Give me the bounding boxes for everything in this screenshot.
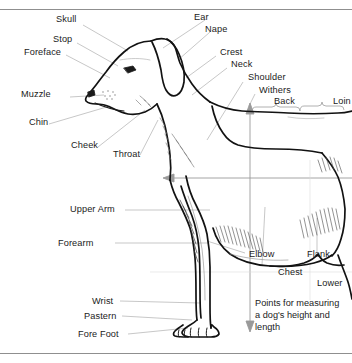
length-arrow-head-left [163,174,174,182]
flank-hatching [300,208,340,238]
leader-nape [178,32,210,60]
ear-outline [152,39,184,96]
label-crest: Crest [220,47,242,58]
label-skull: Skull [56,14,76,25]
region-braces [252,102,344,112]
label-elbow: Elbow [249,249,275,260]
label-shoulder: Shoulder [248,72,286,83]
dog-body-outline [86,39,352,337]
shoulder-fur-hatching [172,134,194,167]
leader-ear [163,20,205,48]
diagram-page: Skull Stop Foreface Muzzle Chin Cheek Th… [0,0,352,363]
label-upper-arm: Upper Arm [70,204,115,215]
label-foreface: Foreface [24,47,61,58]
label-stop: Stop [53,34,72,45]
skull-faint-contour [120,59,150,61]
brisket-underline [213,228,332,266]
loin-faint-dip [288,117,324,119]
leader-crest [186,56,216,78]
label-fore-foot: Fore Foot [78,329,119,340]
rear-leg-outline [338,255,352,299]
label-loin: Loin [333,96,351,107]
whisker-dots [102,90,115,99]
measuring-caption: Points for measuring a dog's height and … [255,297,339,334]
label-chin: Chin [29,117,48,128]
front-foot-toes [190,328,207,337]
height-arrow-head-bottom [246,321,254,332]
label-pastern: Pastern [84,311,116,322]
leader-pastern [122,316,192,320]
far-front-leg [181,186,201,318]
haunch-hatching [318,157,342,173]
label-back: Back [274,96,295,107]
leader-chin [49,106,110,124]
label-lower: Lower [317,278,343,289]
front-leg-front-edge [170,180,197,320]
measuring-caption-line-1: Points for measuring [255,297,339,309]
label-withers: Withers [259,85,291,96]
measuring-caption-line-3: length [255,321,339,333]
label-ear: Ear [194,12,209,23]
eye-marking [124,66,136,73]
label-nape: Nape [205,24,227,35]
leader-wrist [120,301,200,303]
label-flank: Flank [307,249,330,260]
cheek-fur-hatching [136,96,153,109]
label-cheek: Cheek [71,140,98,151]
leader-skull [83,25,128,51]
leader-cheek [98,110,145,147]
label-forearm: Forearm [58,238,93,249]
label-muzzle: Muzzle [21,89,51,100]
label-throat: Throat [113,149,140,160]
label-neck: Neck [231,59,252,70]
front-foot-outline [182,320,219,337]
measuring-caption-line-2: a dog's height and [255,309,339,321]
leader-throat [140,120,158,155]
label-wrist: Wrist [92,296,113,307]
leader-stop [77,43,118,66]
label-chest: Chest [278,267,303,278]
interior-detail-strokes [88,59,342,338]
